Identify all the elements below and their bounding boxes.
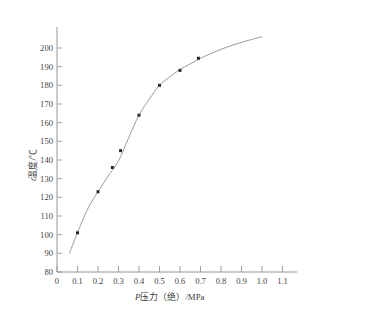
x-tick-label: 0 <box>55 276 59 286</box>
x-tick-label: 1.1 <box>277 276 288 286</box>
x-axis-tick-labels: 0 0.1 0.2 0.3 0.4 0.5 0.6 0.7 0.8 0.9 1.… <box>55 276 288 286</box>
y-tick-label: 110 <box>40 211 53 221</box>
x-tick-label: 0.6 <box>175 276 186 286</box>
x-tick-label: 0.4 <box>134 276 145 286</box>
svg-text:P压力（绝）/MPa: P压力（绝）/MPa <box>134 291 205 302</box>
y-tick-label: 200 <box>40 43 53 53</box>
y-tick-label: 90 <box>44 248 53 258</box>
x-tick-label: 1.0 <box>257 276 268 286</box>
data-point <box>119 149 122 152</box>
x-tick-label: 0.9 <box>236 276 247 286</box>
x-tick-label: 0.1 <box>72 276 83 286</box>
x-tick-label: 0.7 <box>195 276 206 286</box>
y-axis-ticks <box>57 48 62 272</box>
data-point <box>179 69 182 72</box>
x-axis-title-text: 压力（绝）/MPa <box>140 291 204 302</box>
x-axis-title: P压力（绝）/MPa <box>134 291 205 302</box>
y-axis-title-text: 温度/℃ <box>27 149 38 178</box>
data-point <box>97 190 100 193</box>
y-tick-label: 130 <box>40 174 53 184</box>
y-tick-label: 150 <box>40 136 53 146</box>
y-tick-label: 100 <box>40 230 53 240</box>
x-tick-label: 0.5 <box>154 276 165 286</box>
y-tick-label: 180 <box>40 80 53 90</box>
x-tick-label: 0.3 <box>113 276 124 286</box>
saturation-temperature-chart: 200 190 180 170 160 150 140 130 120 110 … <box>0 0 375 321</box>
saturation-curve <box>69 37 262 254</box>
y-tick-label: 190 <box>40 62 53 72</box>
chart-canvas: 200 190 180 170 160 150 140 130 120 110 … <box>0 0 375 321</box>
data-point <box>76 231 79 234</box>
data-point <box>158 84 161 87</box>
y-axis-title: t温度/℃ <box>27 149 38 181</box>
y-tick-label: 160 <box>40 118 53 128</box>
x-axis-ticks <box>57 266 283 272</box>
x-tick-label: 0.8 <box>216 276 227 286</box>
y-tick-label: 170 <box>40 99 53 109</box>
data-point <box>111 166 114 169</box>
data-point-group <box>76 57 200 235</box>
y-tick-label: 140 <box>40 155 53 165</box>
y-axis-tick-labels: 200 190 180 170 160 150 140 130 120 110 … <box>40 43 53 277</box>
data-point <box>138 114 141 117</box>
x-tick-label: 0.2 <box>93 276 104 286</box>
svg-text:t温度/℃: t温度/℃ <box>27 149 38 181</box>
y-tick-label: 120 <box>40 192 53 202</box>
data-point <box>197 57 200 60</box>
y-tick-label: 80 <box>44 267 53 277</box>
